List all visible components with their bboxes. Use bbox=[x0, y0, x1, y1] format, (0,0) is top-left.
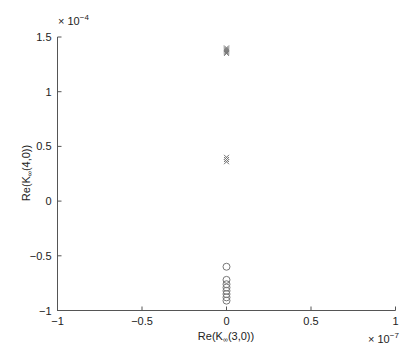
y-axis-label: Re(K∞(4,0)) bbox=[20, 145, 33, 201]
y-multiplier-label: × 10−4 bbox=[58, 13, 89, 27]
y-tick-label: 0.5 bbox=[36, 140, 51, 152]
y-ticks: −1−0.500.511.5 bbox=[30, 31, 62, 317]
circle-marker bbox=[223, 263, 230, 270]
y-tick-label: −1 bbox=[39, 305, 52, 317]
x-axis-label: Re(K∞(3,0)) bbox=[198, 330, 254, 343]
x-ticks: −1−0.500.51 bbox=[51, 307, 398, 327]
scatter-plot: −1−0.500.511.5 −1−0.500.51 × 10−4 × 10−7… bbox=[0, 0, 414, 359]
y-tick-label: 1.5 bbox=[36, 31, 51, 43]
axes bbox=[57, 37, 396, 311]
x-tick-label: −1 bbox=[51, 315, 64, 327]
x-tick-label: −0.5 bbox=[131, 315, 153, 327]
x-tick-label: 1 bbox=[392, 315, 398, 327]
y-tick-label: −0.5 bbox=[30, 250, 52, 262]
x-multiplier-label: × 10−7 bbox=[368, 331, 399, 345]
y-tick-label: 1 bbox=[45, 86, 51, 98]
data-points bbox=[223, 45, 230, 304]
x-tick-label: 0.5 bbox=[303, 315, 318, 327]
x-tick-label: 0 bbox=[223, 315, 229, 327]
y-tick-label: 0 bbox=[45, 195, 51, 207]
